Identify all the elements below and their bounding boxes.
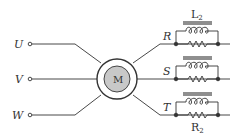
inductor-icon xyxy=(186,27,208,33)
junction-dot xyxy=(174,77,178,81)
label-w: W xyxy=(12,109,25,122)
resistor-icon xyxy=(176,112,218,118)
junction-dot xyxy=(216,77,220,81)
wire-r-diag xyxy=(133,44,160,63)
rl-branch-s xyxy=(174,57,220,82)
wire-u-diag xyxy=(75,44,101,63)
schematic: U V W M R S T L2 R2 xyxy=(0,0,245,139)
motor-label: M xyxy=(113,74,123,85)
inductor-label: L2 xyxy=(191,8,203,22)
resistor-label: R2 xyxy=(191,121,204,135)
resistor-icon xyxy=(176,41,218,47)
terminal-v xyxy=(28,77,32,81)
label-s: S xyxy=(163,65,171,78)
wire-t-diag xyxy=(133,95,160,115)
junction-dot xyxy=(174,113,178,117)
junction-dot xyxy=(216,113,220,117)
inductor-icon xyxy=(186,98,208,104)
rl-branch-t xyxy=(174,93,220,118)
label-t: T xyxy=(163,101,172,114)
label-v: V xyxy=(15,73,24,86)
inductor-icon xyxy=(186,62,208,68)
label-r: R xyxy=(162,30,171,43)
label-u: U xyxy=(14,38,24,51)
terminal-u xyxy=(28,42,32,46)
junction-dot xyxy=(216,42,220,46)
junction-dot xyxy=(174,42,178,46)
rl-branch-r xyxy=(174,22,220,47)
terminal-w xyxy=(28,113,32,117)
resistor-icon xyxy=(176,76,218,82)
wire-w-diag xyxy=(75,95,101,115)
